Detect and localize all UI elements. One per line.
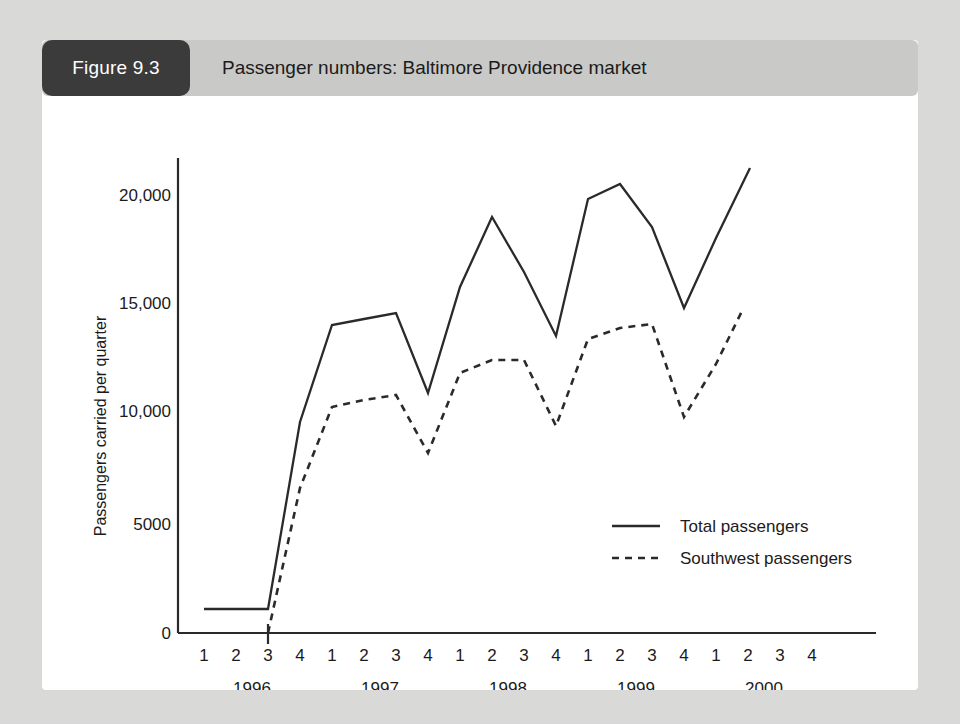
x-year-1998: 1998: [489, 679, 527, 690]
x-tick-1997-q4: 4: [423, 646, 432, 665]
y-tick-10000: 10,000: [119, 402, 171, 421]
x-tick-1997-q2: 2: [359, 646, 368, 665]
series-southwest-passengers: [268, 311, 742, 633]
x-tick-1996-q2: 2: [231, 646, 240, 665]
x-year-1999: 1999: [617, 679, 655, 690]
x-tick-1998-q4: 4: [551, 646, 560, 665]
x-tick-2000-q3: 3: [775, 646, 784, 665]
legend-label-total-passengers: Total passengers: [680, 517, 809, 536]
figure-number-badge: Figure 9.3: [42, 40, 190, 96]
chart-plot-area: Passengers carried per quarter 20,000 15…: [42, 96, 918, 690]
x-tick-1998-q3: 3: [519, 646, 528, 665]
x-tick-1996-q3: 3: [263, 646, 272, 665]
x-tick-1997-q1: 1: [327, 646, 336, 665]
y-axis-title: Passengers carried per quarter: [92, 315, 109, 536]
legend-label-southwest-passengers: Southwest passengers: [680, 549, 852, 568]
x-tick-1999-q3: 3: [647, 646, 656, 665]
figure-title: Passenger numbers: Baltimore Providence …: [222, 40, 647, 96]
x-axis-quarter-labels: 1 2 3 4 1 2 3 4 1 2 3 4 1 2 3 4 1 2 3 4: [199, 646, 816, 665]
x-year-2000: 2000: [745, 679, 783, 690]
chart-legend: Total passengers Southwest passengers: [612, 517, 852, 568]
x-tick-1996-q4: 4: [295, 646, 304, 665]
y-axis-tick-labels: 20,000 15,000 10,000 5000 0: [119, 186, 171, 643]
x-tick-2000-q4: 4: [807, 646, 816, 665]
y-tick-5000: 5000: [133, 515, 171, 534]
x-tick-2000-q2: 2: [743, 646, 752, 665]
x-tick-1999-q2: 2: [615, 646, 624, 665]
x-tick-1998-q1: 1: [455, 646, 464, 665]
x-tick-2000-q1: 1: [711, 646, 720, 665]
y-tick-20000: 20,000: [119, 186, 171, 205]
x-tick-1997-q3: 3: [391, 646, 400, 665]
series-total-passengers: [204, 168, 750, 609]
x-axis-year-labels: 1996 1997 1998 1999 2000: [233, 679, 783, 690]
x-tick-1996-q1: 1: [199, 646, 208, 665]
line-chart-svg: Passengers carried per quarter 20,000 15…: [42, 96, 918, 690]
x-tick-1998-q2: 2: [487, 646, 496, 665]
x-year-1996: 1996: [233, 679, 271, 690]
figure-card: Figure 9.3 Passenger numbers: Baltimore …: [42, 40, 918, 690]
x-tick-1999-q1: 1: [583, 646, 592, 665]
y-tick-15000: 15,000: [119, 294, 171, 313]
x-year-1997: 1997: [361, 679, 399, 690]
x-tick-1999-q4: 4: [679, 646, 688, 665]
y-tick-0: 0: [162, 624, 171, 643]
